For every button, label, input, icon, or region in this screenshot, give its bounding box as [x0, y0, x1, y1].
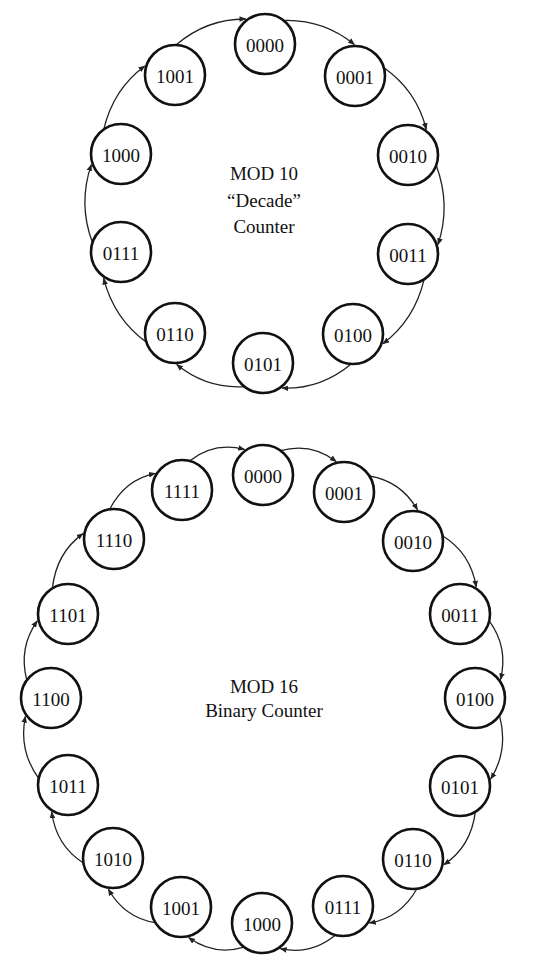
state-label: 0111	[325, 897, 362, 918]
mod10-decade-counter-diagram: 0000000100100011010001010110011110001001…	[85, 14, 444, 393]
transition-arrow-0011-to-0100	[489, 621, 503, 680]
transition-arrow-0010-to-0011	[436, 165, 444, 244]
transition-arrow-0101-to-0110	[444, 812, 475, 865]
state-node-0111: 0111	[91, 222, 151, 282]
state-node-0100: 0100	[323, 304, 383, 364]
transition-arrow-0011-to-0100	[383, 279, 424, 344]
state-label: 0110	[394, 850, 431, 871]
transition-arrow-0111-to-1000	[85, 165, 93, 243]
transition-arrow-0110-to-0111	[370, 889, 417, 923]
transition-arrow-0010-to-0011	[443, 536, 477, 587]
transition-arrow-0001-to-0010	[369, 476, 417, 510]
state-label: 1001	[156, 66, 194, 87]
state-label: 0110	[156, 324, 193, 345]
diagram-title-line: Counter	[233, 216, 295, 237]
state-node-0000: 0000	[235, 14, 295, 74]
counter-state-diagrams: 0000000100100011010001010110011110001001…	[0, 0, 535, 970]
transition-arrow-1000-to-1001	[104, 66, 145, 129]
state-label: 1001	[162, 898, 200, 919]
state-label: 0011	[441, 605, 478, 626]
state-node-1010: 1010	[83, 828, 143, 888]
state-label: 0010	[389, 146, 427, 167]
state-node-1001: 1001	[151, 877, 211, 937]
state-node-0110: 0110	[145, 303, 205, 363]
state-label: 0100	[334, 325, 372, 346]
state-label: 1100	[32, 689, 69, 710]
transition-arrow-1101-to-1110	[52, 534, 83, 589]
diagram-title-line: MOD 10	[230, 163, 298, 184]
state-node-0100: 0100	[445, 668, 505, 728]
state-label: 0101	[244, 354, 282, 375]
transition-arrow-0110-to-0111	[104, 278, 147, 342]
state-node-0011: 0011	[430, 584, 490, 644]
state-label: 1101	[49, 605, 86, 626]
state-label: 1000	[102, 145, 140, 166]
transition-arrow-0001-to-0010	[384, 68, 426, 130]
diagram-title-line: Binary Counter	[205, 700, 323, 721]
state-label: 0000	[246, 35, 284, 56]
state-node-1001: 1001	[145, 45, 205, 105]
state-node-0001: 0001	[314, 462, 374, 522]
state-label: 1010	[94, 849, 132, 870]
state-node-0110: 0110	[383, 829, 443, 889]
transition-arrow-0100-to-0101	[491, 715, 503, 779]
transition-arrow-1010-to-1011	[52, 812, 84, 863]
state-node-1011: 1011	[38, 755, 98, 815]
state-label: 1111	[164, 481, 200, 502]
state-node-1100: 1100	[21, 668, 81, 728]
state-label: 0100	[456, 689, 494, 710]
state-node-0011: 0011	[378, 224, 438, 284]
state-node-0111: 0111	[313, 876, 373, 936]
state-node-0101: 0101	[430, 756, 490, 816]
state-node-1110: 1110	[84, 509, 144, 569]
transition-arrow-1110-to-1111	[110, 473, 156, 509]
state-label: 1110	[96, 530, 133, 551]
state-node-1000: 1000	[91, 124, 151, 184]
state-node-0101: 0101	[233, 333, 293, 393]
state-label: 0001	[336, 67, 374, 88]
state-label: 0010	[394, 532, 432, 553]
state-node-0000: 0000	[233, 445, 293, 505]
mod16-binary-counter-diagram: 0000000100100011010001010110011110001001…	[21, 445, 505, 953]
state-label: 0001	[325, 483, 363, 504]
diagram-title-line: MOD 16	[230, 676, 298, 697]
state-label: 0000	[244, 466, 282, 487]
state-node-0010: 0010	[378, 125, 438, 185]
diagram-title-line: “Decade”	[227, 190, 301, 211]
state-label: 0101	[441, 777, 479, 798]
state-node-0001: 0001	[325, 46, 385, 106]
state-node-1111: 1111	[152, 460, 212, 520]
state-label: 1000	[243, 914, 281, 935]
transition-arrow-1001-to-1010	[108, 889, 155, 923]
state-node-1101: 1101	[38, 584, 98, 644]
state-label: 0111	[103, 243, 140, 264]
state-node-1000: 1000	[232, 893, 292, 953]
state-label: 1011	[49, 776, 86, 797]
state-label: 0011	[389, 245, 426, 266]
state-node-0010: 0010	[383, 511, 443, 571]
